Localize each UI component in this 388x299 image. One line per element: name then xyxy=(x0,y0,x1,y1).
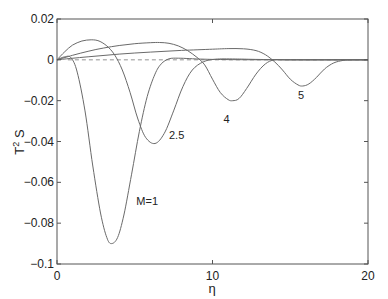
y-tick-label: −0.1 xyxy=(30,257,54,271)
y-tick-label: −0.04 xyxy=(24,135,55,149)
plot-area: M=12.545 0.020−0.02−0.04−0.06−0.08−0.1 0… xyxy=(24,12,375,283)
y-tick-label: −0.08 xyxy=(24,216,55,230)
y-tick-label: −0.02 xyxy=(24,94,55,108)
x-tick-label: 20 xyxy=(361,269,375,283)
x-tick-label: 0 xyxy=(54,269,61,283)
y-axis-title: T2 S xyxy=(11,129,27,155)
y-tick-label: 0.02 xyxy=(31,12,55,26)
curve-label: M=1 xyxy=(136,195,158,207)
curve-label: 4 xyxy=(223,113,229,125)
curve-label: 2.5 xyxy=(169,129,184,141)
curve-label: 5 xyxy=(298,89,304,101)
chart: M=12.545 0.020−0.02−0.04−0.06−0.08−0.1 0… xyxy=(0,0,388,299)
y-tick-label: −0.06 xyxy=(24,175,55,189)
y-tick-label: 0 xyxy=(47,53,54,67)
x-axis-title: η xyxy=(208,281,215,296)
